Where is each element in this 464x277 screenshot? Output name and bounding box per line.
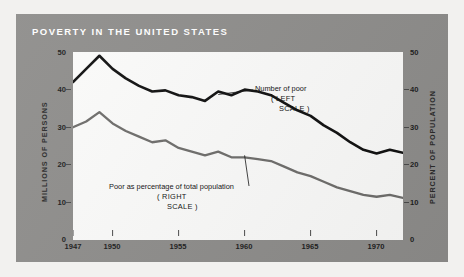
annotation-percent-line2: ( RIGHT <box>109 192 234 202</box>
tick-left-20 <box>66 164 71 165</box>
y-tick-right-50: 50 <box>410 48 418 57</box>
series-line-poor <box>73 56 403 154</box>
leader-line-percent <box>245 155 249 186</box>
y-tick-right-0: 0 <box>410 235 414 244</box>
x-tick-1947: 1947 <box>65 242 82 251</box>
annotation-percent-line1: Poor as percentage of total population <box>109 182 234 192</box>
y-tick-left-30: 30 <box>58 123 66 132</box>
y-tick-left-40: 40 <box>58 85 66 94</box>
tick-right-40 <box>404 89 409 90</box>
y-tick-left-10: 10 <box>58 198 66 207</box>
annotation-percent-of-population: Poor as percentage of total population (… <box>109 182 234 212</box>
tick-left-40 <box>66 89 71 90</box>
y-tick-right-40: 40 <box>410 85 418 94</box>
x-tick-marks <box>73 230 377 236</box>
y-axis-left-label: MILLIONS OF PERSONS <box>40 101 49 202</box>
annotation-poor-line2: ( LEFT <box>255 94 310 104</box>
y-tick-left-20: 20 <box>58 160 66 169</box>
chart-figure: POVERTY IN THE UNITED STATES MILLIONS OF… <box>16 14 448 262</box>
y-axis-right-label: PERCENT OF POPULATION <box>428 90 437 204</box>
chart-title: POVERTY IN THE UNITED STATES <box>32 26 228 37</box>
x-tick-1955: 1955 <box>170 242 187 251</box>
y-tick-right-30: 30 <box>410 123 418 132</box>
x-tick-1970: 1970 <box>368 242 385 251</box>
y-tick-right-20: 20 <box>410 160 418 169</box>
annotation-percent-line3: SCALE ) <box>109 202 234 212</box>
tick-right-10 <box>404 202 409 203</box>
annotation-poor-line1: Number of poor <box>255 84 310 94</box>
annotation-number-of-poor: Number of poor ( LEFT SCALE ) <box>255 84 310 114</box>
x-tick-1950: 1950 <box>104 242 121 251</box>
annotation-poor-line3: SCALE ) <box>255 104 310 114</box>
tick-left-10 <box>66 202 71 203</box>
tick-right-20 <box>404 164 409 165</box>
x-tick-1965: 1965 <box>302 242 319 251</box>
plot-area: Number of poor ( LEFT SCALE ) Poor as pe… <box>73 52 403 240</box>
y-tick-left-50: 50 <box>58 48 66 57</box>
tick-right-30 <box>404 127 409 128</box>
x-tick-1960: 1960 <box>236 242 253 251</box>
tick-left-30 <box>66 127 71 128</box>
y-tick-right-10: 10 <box>410 198 418 207</box>
